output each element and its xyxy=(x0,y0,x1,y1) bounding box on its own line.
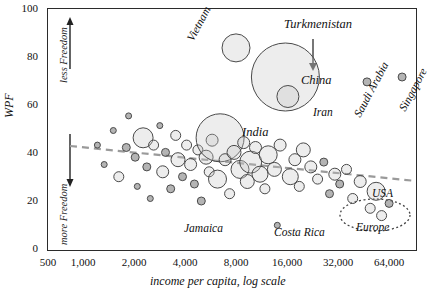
data-bubble xyxy=(222,34,250,62)
data-bubble xyxy=(260,184,270,194)
data-bubble xyxy=(277,86,299,108)
y-tick-20: 20 xyxy=(8,194,38,206)
x-tick-4000: 4,000 xyxy=(165,256,205,268)
y-tick-0: 0 xyxy=(8,242,38,254)
x-tick-2000: 2,000 xyxy=(114,256,154,268)
label-jamaica: Jamaica xyxy=(184,222,223,234)
y-tick-100: 100 xyxy=(8,2,38,14)
data-bubble xyxy=(185,159,197,171)
data-bubble xyxy=(274,139,286,151)
data-bubble xyxy=(197,197,205,205)
data-bubble xyxy=(348,194,358,204)
y-tick-40: 40 xyxy=(8,146,38,158)
data-bubble xyxy=(134,183,140,189)
data-bubble xyxy=(190,180,198,188)
y-tick-80: 80 xyxy=(8,50,38,62)
data-bubble xyxy=(162,148,170,156)
data-bubble xyxy=(149,140,159,150)
plot-area: less Freedom more Freedom Vietnam xyxy=(47,8,417,251)
label-europe: Europe xyxy=(356,221,389,233)
chart-overlay xyxy=(48,9,418,252)
data-bubble xyxy=(336,180,344,188)
data-bubble xyxy=(259,146,277,164)
data-bubble xyxy=(252,166,268,182)
label-turkmenistan: Turkmenistan xyxy=(284,17,352,32)
data-bubble xyxy=(305,161,317,173)
data-bubble xyxy=(313,174,323,184)
x-tick-1000: 1,000 xyxy=(63,256,103,268)
data-bubble xyxy=(377,211,387,221)
data-bubble xyxy=(179,173,187,181)
y-tick-60: 60 xyxy=(8,98,38,110)
data-bubble xyxy=(147,196,153,202)
label-iran: Iran xyxy=(313,106,333,118)
x-tick-16000: 16,000 xyxy=(263,256,311,268)
label-china: China xyxy=(301,73,332,88)
data-bubble xyxy=(157,166,169,178)
label-india: India xyxy=(242,125,268,140)
data-bubble xyxy=(122,144,130,152)
x-tick-32000: 32,000 xyxy=(314,256,362,268)
data-bubble xyxy=(326,190,334,198)
data-bubble xyxy=(320,158,328,166)
data-bubble xyxy=(126,113,132,119)
data-bubble xyxy=(209,170,227,188)
data-bubble xyxy=(385,199,393,207)
data-bubble xyxy=(227,145,241,159)
data-bubble xyxy=(329,168,341,180)
data-bubble xyxy=(365,203,375,213)
data-bubble xyxy=(143,163,151,171)
data-bubble xyxy=(398,73,406,81)
data-bubble xyxy=(182,140,192,150)
data-bubble xyxy=(110,128,116,134)
data-bubble xyxy=(171,130,181,140)
data-bubble xyxy=(114,172,124,182)
label-usa: USA xyxy=(372,187,393,199)
data-bubble xyxy=(296,143,310,157)
data-bubble xyxy=(157,123,163,129)
label-costa-rica: Costa Rica xyxy=(274,226,325,238)
data-bubble xyxy=(131,153,139,161)
data-bubble xyxy=(101,162,107,168)
x-axis-title: income per capita, log scale xyxy=(150,274,286,289)
data-bubble xyxy=(267,162,281,176)
data-bubble xyxy=(171,153,185,167)
data-bubble xyxy=(342,164,352,174)
data-bubble xyxy=(94,142,100,148)
chart-figure: WPF 100 80 60 40 20 0 500 1,000 2,000 4,… xyxy=(0,0,441,297)
x-tick-500: 500 xyxy=(30,256,66,268)
data-bubble xyxy=(354,176,366,188)
x-tick-64000: 64,000 xyxy=(365,256,413,268)
data-bubble xyxy=(167,185,175,193)
data-bubble xyxy=(294,181,304,191)
data-bubble xyxy=(225,189,235,199)
x-tick-8000: 8,000 xyxy=(216,256,256,268)
